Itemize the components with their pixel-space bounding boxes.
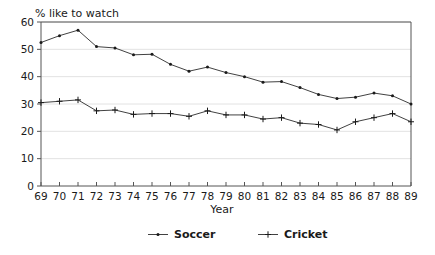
line-chart: 0102030405060 69707172737475767778798081… — [0, 0, 435, 255]
series-soccer-dot-marker — [169, 63, 172, 66]
series-cricket-plus-marker — [131, 111, 137, 117]
series-cricket-plus-marker — [408, 119, 414, 125]
y-tick-label: 30 — [21, 98, 34, 110]
x-tick-label: 85 — [330, 190, 343, 202]
series-soccer-dot-marker — [206, 66, 209, 69]
legend-soccer-dot-marker — [157, 233, 160, 236]
x-tick-label: 89 — [404, 190, 417, 202]
series-soccer-dot-marker — [40, 41, 43, 44]
series-soccer-dot-marker — [317, 93, 320, 96]
x-tick-label: 76 — [164, 190, 178, 202]
series-soccer-dot-marker — [132, 53, 135, 56]
x-tick-label: 88 — [386, 190, 399, 202]
series-cricket-plus-marker — [75, 97, 81, 103]
x-tick-label: 80 — [238, 190, 251, 202]
y-tick-label: 50 — [21, 43, 34, 55]
series-soccer-dot-marker — [114, 46, 117, 49]
legend-item-cricket[interactable]: Cricket — [258, 228, 328, 241]
x-tick-label: 72 — [90, 190, 103, 202]
x-tick-label: 70 — [53, 190, 66, 202]
series-cricket-plus-marker — [371, 114, 377, 120]
series-soccer-dot-marker — [95, 45, 98, 48]
x-tick-label: 71 — [71, 190, 84, 202]
x-axis-title: Year — [209, 203, 234, 216]
x-tick-label: 82 — [275, 190, 288, 202]
series-soccer-dot-marker — [225, 71, 228, 74]
series-line-soccer — [41, 30, 411, 104]
series-soccer-dot-marker — [354, 96, 357, 99]
series-soccer-dot-marker — [336, 97, 339, 100]
series-cricket-plus-marker — [260, 116, 266, 122]
series-cricket-plus-marker — [297, 120, 303, 126]
series-cricket-plus-marker — [205, 108, 211, 114]
chart-container: 0102030405060 69707172737475767778798081… — [0, 0, 435, 255]
x-tick-label: 86 — [349, 190, 363, 202]
series-soccer-dot-marker — [188, 70, 191, 73]
legend: SoccerCricket — [148, 228, 328, 241]
gridlines — [41, 22, 411, 159]
y-tick-label: 40 — [21, 70, 34, 82]
series-cricket-plus-marker — [390, 110, 396, 116]
y-tick-label: 0 — [27, 180, 34, 192]
series-cricket-plus-marker — [38, 99, 44, 105]
series-cricket-plus-marker — [112, 107, 118, 113]
series-soccer-dot-marker — [262, 81, 265, 84]
series-cricket-plus-marker — [223, 112, 229, 118]
series-cricket-plus-marker — [149, 110, 155, 116]
legend-item-soccer[interactable]: Soccer — [148, 228, 216, 241]
series-cricket-plus-marker — [279, 114, 285, 120]
x-tick-label: 77 — [182, 190, 195, 202]
series-cricket-plus-marker — [334, 127, 340, 133]
x-tick-label: 84 — [312, 190, 326, 202]
series-soccer-dot-marker — [77, 29, 80, 32]
legend-cricket-plus-marker — [265, 231, 271, 237]
x-tick-label: 81 — [256, 190, 269, 202]
series-cricket-plus-marker — [316, 121, 322, 127]
x-tick-label: 87 — [367, 190, 380, 202]
series-soccer-dot-marker — [391, 94, 394, 97]
series-soccer-dot-marker — [243, 75, 246, 78]
series-soccer-dot-marker — [373, 92, 376, 95]
series-soccer-dot-marker — [280, 80, 283, 83]
series-soccer-dot-marker — [410, 103, 413, 106]
y-tick-label: 20 — [21, 125, 34, 137]
y-axis-ticks: 0102030405060 — [21, 16, 41, 192]
y-tick-label: 10 — [21, 152, 34, 164]
legend-label: Cricket — [284, 228, 328, 241]
x-tick-label: 69 — [34, 190, 47, 202]
x-tick-label: 79 — [219, 190, 232, 202]
series-cricket — [38, 97, 414, 133]
series-cricket-plus-marker — [353, 119, 359, 125]
x-axis-ticks: 6970717273747576777879808182838485868788… — [34, 182, 417, 202]
series-cricket-plus-marker — [168, 110, 174, 116]
x-tick-label: 74 — [127, 190, 141, 202]
y-tick-label: 60 — [21, 16, 34, 28]
series-soccer — [40, 29, 413, 106]
x-tick-label: 73 — [108, 190, 121, 202]
x-tick-label: 83 — [293, 190, 306, 202]
series-cricket-plus-marker — [186, 113, 192, 119]
series-soccer-dot-marker — [299, 86, 302, 89]
series-soccer-dot-marker — [58, 34, 61, 37]
series-soccer-dot-marker — [151, 53, 154, 56]
y-axis-title: % like to watch — [35, 7, 119, 20]
data-series — [38, 29, 414, 133]
x-tick-label: 75 — [145, 190, 158, 202]
x-tick-label: 78 — [201, 190, 214, 202]
series-cricket-plus-marker — [242, 112, 248, 118]
series-cricket-plus-marker — [94, 108, 100, 114]
legend-label: Soccer — [174, 228, 216, 241]
